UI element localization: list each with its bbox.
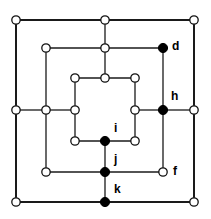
- graph-node: [131, 106, 139, 114]
- node-label-k: k: [114, 182, 121, 196]
- graph-node: [71, 74, 79, 82]
- graph-node: [190, 106, 198, 114]
- graph-node-j: [100, 167, 109, 176]
- graph-node: [190, 16, 198, 24]
- node-label-j: j: [113, 152, 117, 166]
- graph-node: [101, 44, 109, 52]
- graph-node-i: [100, 136, 109, 145]
- graph-node: [71, 106, 79, 114]
- graph-node: [12, 106, 20, 114]
- figure-root: dhijfk: [0, 0, 211, 219]
- graph-node: [101, 74, 109, 82]
- graph-node: [131, 74, 139, 82]
- graph-diagram: dhijfk: [0, 0, 211, 219]
- graph-node-d: [158, 43, 167, 52]
- graph-node: [42, 106, 50, 114]
- graph-node: [131, 137, 139, 145]
- node-label-h: h: [171, 89, 178, 103]
- graph-node: [71, 137, 79, 145]
- graph-node: [12, 16, 20, 24]
- graph-node-f: [159, 168, 167, 176]
- graph-node-k: [100, 197, 109, 206]
- graph-node: [101, 16, 109, 24]
- node-label-f: f: [173, 164, 178, 178]
- graph-node: [42, 44, 50, 52]
- node-label-d: d: [172, 39, 179, 53]
- graph-node: [190, 198, 198, 206]
- graph-node-h: [158, 105, 167, 114]
- graph-node: [12, 198, 20, 206]
- graph-node: [42, 168, 50, 176]
- node-label-i: i: [114, 121, 117, 135]
